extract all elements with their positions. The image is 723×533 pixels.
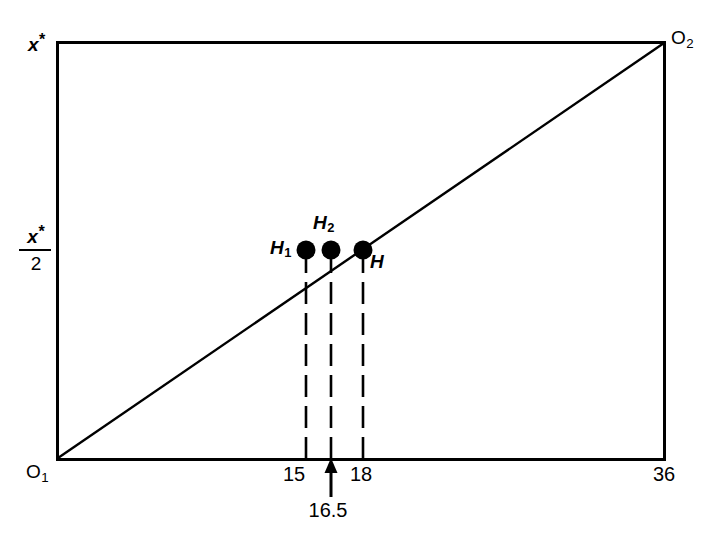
fraction-denominator: 2 <box>19 253 53 274</box>
y-axis-label-x-star-superscript: * <box>39 30 46 48</box>
origin-label-o2-subscript: 2 <box>686 36 694 51</box>
y-axis-label-x-star-over-2: x* 2 <box>19 221 53 274</box>
fraction-bar <box>19 249 51 251</box>
x-axis-arrow-16-5-icon <box>325 458 338 497</box>
origin-label-o1-subscript: 1 <box>41 470 49 485</box>
diagram-canvas <box>0 0 723 533</box>
x-axis-tick-label-36: 36 <box>645 464 683 484</box>
point-label-h1-subscript: 1 <box>284 245 292 260</box>
point-label-h2: H2 <box>313 213 334 235</box>
figure-container: O1 O2 x* x* 2 H1 H2 H 15 18 36 16.5 <box>0 0 723 533</box>
x-axis-tick-label-18: 18 <box>349 464 373 484</box>
origin-label-o1: O1 <box>26 462 49 484</box>
point-label-h2-subscript: 2 <box>327 220 335 235</box>
fraction-numerator: x* <box>19 221 53 247</box>
fraction-numerator-superscript: * <box>38 222 45 240</box>
origin-label-o2: O2 <box>671 28 694 50</box>
point-marker-h2 <box>322 241 341 260</box>
point-label-h: H <box>370 252 384 271</box>
y-axis-label-x-star: x* <box>28 31 45 54</box>
x-axis-tick-label-15: 15 <box>283 464 305 484</box>
point-marker-h1 <box>297 241 316 260</box>
x-axis-arrow-label-16-5: 16.5 <box>296 500 360 520</box>
point-label-h1: H1 <box>270 238 291 260</box>
